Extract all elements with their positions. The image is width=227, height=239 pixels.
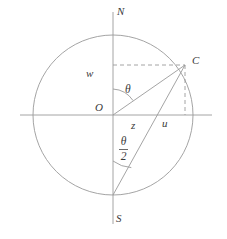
label-angle-theta: θ xyxy=(125,84,131,96)
label-segment-z: z xyxy=(131,120,135,131)
figure-root: N S C O w z u θ θ 2 xyxy=(0,0,227,239)
segment-sc xyxy=(113,65,185,195)
label-south: S xyxy=(116,213,122,224)
label-segment-u: u xyxy=(162,118,168,129)
segment-oc xyxy=(113,65,185,115)
label-origin: O xyxy=(95,102,103,113)
half-angle-numerator: θ xyxy=(119,136,128,149)
half-angle-denominator: 2 xyxy=(119,150,128,163)
geometry-diagram xyxy=(0,0,227,239)
label-half-angle: θ 2 xyxy=(119,136,128,162)
label-point-c: C xyxy=(192,55,199,66)
label-segment-w: w xyxy=(86,68,93,79)
label-north: N xyxy=(117,6,124,17)
